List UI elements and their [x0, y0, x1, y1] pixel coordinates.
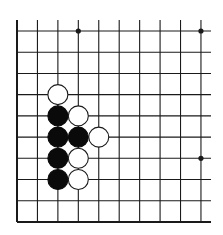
- star-point-icon: [76, 28, 81, 33]
- black-stone-icon: [68, 127, 88, 147]
- black-stone-icon: [48, 148, 68, 168]
- white-stone-icon: [68, 148, 88, 168]
- star-point-icon: [198, 28, 203, 33]
- go-board: [0, 0, 223, 235]
- white-stone-icon: [48, 85, 68, 105]
- white-stone-icon: [68, 106, 88, 126]
- black-stone-icon: [48, 106, 68, 126]
- white-stone-icon: [89, 127, 109, 147]
- black-stone-icon: [48, 170, 68, 190]
- star-point-icon: [198, 156, 203, 161]
- white-stone-icon: [68, 170, 88, 190]
- black-stone-icon: [48, 127, 68, 147]
- board-grid: [17, 20, 211, 222]
